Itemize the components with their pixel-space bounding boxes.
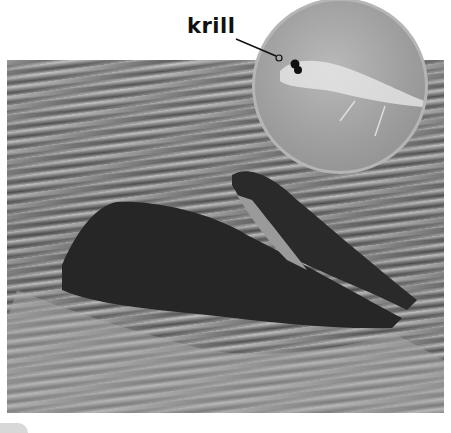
krill-label: krill [187,14,235,38]
krill-inset [252,0,428,174]
krill-illustration [255,1,428,174]
krill-body [280,61,425,107]
krill-leg [340,101,355,121]
corner-tab [0,423,28,433]
krill-leg [375,106,385,136]
krill-eye [294,66,302,74]
